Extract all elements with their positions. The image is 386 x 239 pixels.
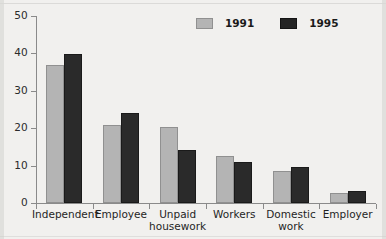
bar-1991-workers (216, 156, 234, 203)
y-tick-20 (31, 128, 36, 129)
category-label-line: Domestic (259, 209, 324, 221)
legend-label-1995: 1995 (309, 17, 338, 29)
category-label-line: housework (145, 221, 210, 233)
category-label-employee: Employee (89, 209, 154, 221)
y-tick-label-20: 20 (4, 121, 28, 133)
bar-1991-employee (103, 125, 121, 203)
category-label-employer: Employer (315, 209, 380, 221)
category-label-line: Employer (315, 209, 380, 221)
y-axis-line (36, 16, 37, 204)
y-tick-40 (31, 53, 36, 54)
category-label-line: Independent (32, 209, 97, 221)
category-label-line: Employee (89, 209, 154, 221)
y-tick-label-40: 40 (4, 46, 28, 58)
y-tick-label-10: 10 (4, 159, 28, 171)
chart-legend: 1991 1995 (196, 17, 338, 29)
y-tick-label-30: 30 (4, 84, 28, 96)
y-tick-30 (31, 91, 36, 92)
y-tick-10 (31, 166, 36, 167)
y-tick-label-0: 0 (4, 196, 28, 208)
legend-swatch-1995-icon (280, 18, 297, 29)
category-label-unpaid-housework: Unpaidhousework (145, 209, 210, 232)
category-label-workers: Workers (202, 209, 267, 221)
bar-1995-independent (64, 54, 82, 203)
bar-1991-employer (330, 193, 348, 203)
legend-label-1991: 1991 (225, 17, 254, 29)
legend-swatch-1991-icon (196, 18, 213, 29)
category-label-line: Unpaid (145, 209, 210, 221)
scanned-page-background: 01020304050 IndependentEmployeeUnpaidhou… (0, 0, 386, 239)
bar-1991-independent (46, 65, 64, 203)
y-tick-label-50: 50 (4, 9, 28, 21)
category-label-independent: Independent (32, 209, 97, 221)
category-label-domestic-work: Domesticwork (259, 209, 324, 232)
category-label-line: Workers (202, 209, 267, 221)
bar-1995-domestic-work (291, 167, 309, 203)
grouped-bar-chart: 01020304050 IndependentEmployeeUnpaidhou… (0, 0, 386, 239)
bar-1991-unpaid-housework (160, 127, 178, 203)
legend-item-1991[interactable]: 1991 (196, 17, 254, 29)
bar-1995-unpaid-housework (178, 150, 196, 203)
legend-item-1995[interactable]: 1995 (280, 17, 338, 29)
category-label-line: work (259, 221, 324, 233)
bar-1995-employee (121, 113, 139, 204)
bar-1995-workers (234, 162, 252, 203)
bar-1991-domestic-work (273, 171, 291, 203)
y-tick-50 (31, 16, 36, 17)
bar-1995-employer (348, 191, 366, 203)
